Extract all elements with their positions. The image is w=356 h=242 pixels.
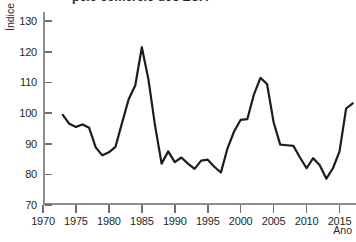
x-tick-label: 1980 [97, 215, 121, 227]
x-tick-mark [207, 205, 209, 213]
x-tick-mark [240, 205, 242, 213]
x-axis-label: Ano [333, 224, 352, 236]
x-tick-label: 1995 [196, 215, 220, 227]
x-tick-mark [75, 205, 77, 213]
y-tick-label: 70 [25, 199, 37, 211]
x-tick-label: 2000 [229, 215, 253, 227]
chart-title: pelo comércio dos EUA [72, 0, 332, 4]
plot-area: 708090100110120130 197019751980198519901… [43, 12, 356, 205]
series-line-chart [43, 12, 356, 205]
y-tick-label: 130 [19, 15, 37, 27]
chart-figure: pelo comércio dos EUA Índice 70809010011… [0, 0, 356, 242]
x-tick-mark [306, 205, 308, 213]
x-tick-label: 1990 [163, 215, 187, 227]
x-tick-label: 1985 [130, 215, 154, 227]
y-axis-label: Índice [4, 0, 16, 40]
y-tick-label: 120 [19, 46, 37, 58]
series-polyline [63, 47, 353, 178]
x-tick-label: 1970 [31, 215, 55, 227]
x-tick-mark [141, 205, 143, 213]
x-tick-label: 2010 [295, 215, 319, 227]
y-tick-label: 80 [25, 168, 37, 180]
x-tick-label: 2005 [262, 215, 286, 227]
x-tick-label: 1975 [64, 215, 88, 227]
x-tick-mark [273, 205, 275, 213]
x-tick-mark [42, 205, 44, 213]
x-tick-mark [108, 205, 110, 213]
y-tick-label: 100 [19, 107, 37, 119]
x-tick-mark [174, 205, 176, 213]
x-tick-mark [339, 205, 341, 213]
y-tick-label: 90 [25, 138, 37, 150]
y-tick-label: 110 [20, 76, 37, 88]
